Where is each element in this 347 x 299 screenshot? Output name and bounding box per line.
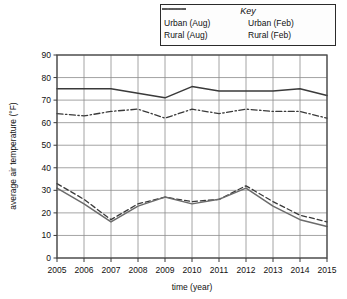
x-tick-label: 2006	[75, 265, 94, 275]
y-tick-label: 70	[42, 95, 52, 105]
x-tick-label: 2007	[102, 265, 121, 275]
x-axis-label: time (year)	[172, 282, 213, 292]
y-tick-label: 80	[42, 73, 52, 83]
grid-lines	[57, 55, 327, 258]
y-tick-label: 50	[42, 140, 52, 150]
x-tick-label: 2014	[291, 265, 310, 275]
x-tick-label: 2011	[210, 265, 229, 275]
chart-plot: 0102030405060708090 20052006200720082009…	[0, 0, 347, 299]
y-tick-label: 0	[46, 253, 51, 263]
y-tick-label: 20	[42, 208, 52, 218]
x-tick-label: 2010	[183, 265, 202, 275]
chart-container: Key Urban (Aug) Urban (Feb) Rural (Aug)	[0, 0, 347, 299]
x-tick-label: 2005	[48, 265, 67, 275]
y-axis-ticks: 0102030405060708090	[42, 50, 57, 263]
x-tick-label: 2012	[237, 265, 256, 275]
x-tick-label: 2013	[264, 265, 283, 275]
y-tick-label: 60	[42, 118, 52, 128]
x-tick-label: 2015	[318, 265, 337, 275]
x-axis-ticks: 2005200620072008200920102011201220132014…	[48, 258, 337, 275]
y-tick-label: 30	[42, 185, 52, 195]
y-axis-label: average air temperature (°F)	[8, 102, 18, 209]
y-tick-label: 90	[42, 50, 52, 60]
y-tick-label: 40	[42, 163, 52, 173]
x-tick-label: 2008	[129, 265, 148, 275]
y-tick-label: 10	[42, 230, 52, 240]
x-tick-label: 2009	[156, 265, 175, 275]
